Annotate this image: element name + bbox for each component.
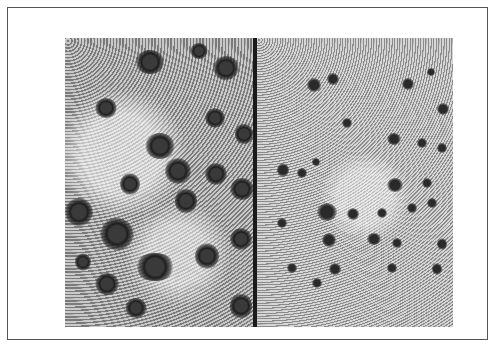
micrograph-figure bbox=[65, 38, 453, 327]
micrograph-panel-left bbox=[65, 38, 253, 327]
figure-frame bbox=[7, 7, 488, 340]
micrograph-panel-right bbox=[257, 38, 453, 327]
